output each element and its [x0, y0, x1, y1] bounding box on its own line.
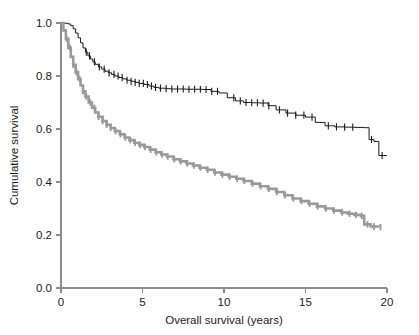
- x-tick-label: 20: [381, 296, 394, 308]
- y-tick-label: 0.6: [36, 123, 52, 135]
- survival-curve-upper-curve: [61, 23, 387, 156]
- axes-layer: [56, 23, 387, 293]
- x-axis-title: Overall survival (years): [165, 314, 283, 326]
- x-tick-label: 15: [299, 296, 312, 308]
- y-tick-label: 1.0: [36, 17, 52, 29]
- series-layer: [61, 23, 387, 230]
- labels-layer: 051015200.00.20.40.60.81.0Overall surviv…: [8, 17, 393, 326]
- y-tick-label: 0.4: [36, 176, 53, 188]
- y-tick-label: 0.0: [36, 282, 52, 294]
- y-axis-title: Cumulative survival: [8, 106, 20, 206]
- x-tick-label: 0: [58, 296, 64, 308]
- x-tick-label: 10: [218, 296, 231, 308]
- x-tick-label: 5: [139, 296, 145, 308]
- survival-curve-lower-curve: [61, 23, 379, 227]
- kaplan-meier-plot: 051015200.00.20.40.60.81.0Overall surviv…: [0, 0, 419, 335]
- survival-chart-figure: 051015200.00.20.40.60.81.0Overall surviv…: [0, 0, 419, 335]
- y-tick-label: 0.8: [36, 70, 52, 82]
- y-tick-label: 0.2: [36, 229, 52, 241]
- censor-marks-lower-curve: [67, 36, 381, 231]
